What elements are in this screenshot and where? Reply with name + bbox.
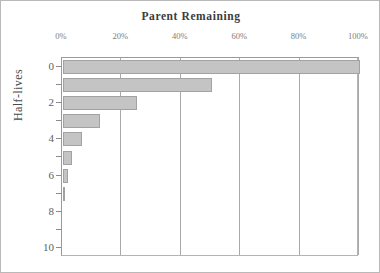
gridline-100 <box>358 58 359 255</box>
x-tick-label: 100% <box>348 31 368 41</box>
x-tick-label: 0% <box>55 31 66 41</box>
plot-area <box>61 57 358 256</box>
y-tick-label: 4 <box>49 132 55 144</box>
chart-title: Parent Remaining <box>1 10 380 22</box>
y-tick-label: 10 <box>43 241 54 253</box>
x-tick-label: 40% <box>172 31 188 41</box>
gridline-80 <box>299 58 300 255</box>
x-tick-label: 60% <box>231 31 247 41</box>
x-tick-label: 20% <box>113 31 129 41</box>
bar <box>63 187 65 201</box>
bar <box>63 132 82 146</box>
y-tick-label: 0 <box>49 60 55 72</box>
chart-frame: Parent Remaining 0%20%40%60%80%100% Half… <box>0 0 380 273</box>
bar <box>63 60 360 74</box>
y-tick-label: 8 <box>49 205 55 217</box>
bar <box>63 151 72 165</box>
bar <box>63 169 68 183</box>
y-tick-label: 2 <box>49 96 55 108</box>
y-axis-title: Half-lives <box>11 105 26 121</box>
bar <box>63 96 137 110</box>
y-tick-label: 6 <box>49 169 55 181</box>
x-tick-label: 80% <box>291 31 307 41</box>
bar <box>63 114 100 128</box>
gridline-60 <box>239 58 240 255</box>
bar <box>63 78 212 92</box>
